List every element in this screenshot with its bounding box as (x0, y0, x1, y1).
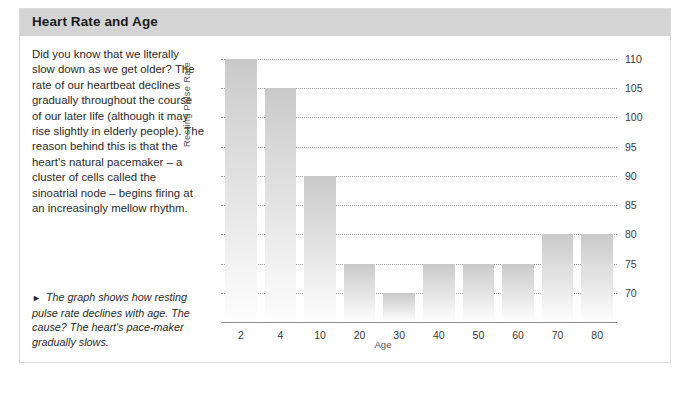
x-tick-label: 60 (512, 329, 524, 341)
bar (542, 234, 574, 322)
panel-header-band: Heart Rate and Age (20, 9, 670, 36)
figure-caption: ► The graph shows how resting pulse rate… (32, 290, 210, 349)
figure-caption-text: The graph shows how resting pulse rate d… (32, 291, 190, 348)
y-tick-label: 80 (625, 228, 637, 240)
x-axis-line (221, 322, 617, 323)
x-tick-label: 80 (591, 329, 603, 341)
page-title: Heart Rate and Age (32, 14, 158, 29)
gridline (221, 59, 617, 60)
bar (581, 234, 613, 322)
article-text-column: Did you know that we literally slow down… (32, 47, 204, 216)
x-tick-label: 20 (354, 329, 366, 341)
x-tick-label: 10 (314, 329, 326, 341)
bar (463, 264, 495, 322)
bar (225, 59, 257, 322)
x-tick-label: 40 (433, 329, 445, 341)
bar (502, 264, 534, 322)
y-tick-label: 70 (625, 287, 637, 299)
y-axis-label: Resting Pulse Rate (182, 27, 192, 147)
y-tick-label: 105 (625, 82, 643, 94)
y-tick-label: 90 (625, 170, 637, 182)
x-tick-label: 50 (473, 329, 485, 341)
chart-container: Resting Pulse Rate 110105100959085807570… (185, 47, 665, 352)
x-tick-label: 2 (238, 329, 244, 341)
x-axis-label: Age (374, 339, 391, 350)
x-tick-label: 4 (277, 329, 283, 341)
y-tick-label: 85 (625, 199, 637, 211)
x-tick-label: 70 (552, 329, 564, 341)
y-tick-label: 95 (625, 141, 637, 153)
y-tick-label: 110 (625, 53, 642, 65)
article-body: Did you know that we literally slow down… (32, 47, 204, 216)
y-tick-label: 100 (625, 111, 643, 123)
bar (265, 88, 297, 322)
x-tick-label: 30 (393, 329, 405, 341)
bar (423, 264, 455, 322)
article-panel: Heart Rate and Age Did you know that we … (19, 8, 671, 363)
bar (344, 264, 376, 322)
bar (304, 176, 336, 322)
y-tick-label: 75 (625, 258, 637, 270)
caption-triangle-icon: ► (32, 293, 43, 303)
bar (383, 293, 415, 322)
plot-area: 110105100959085807570241020304050607080 (221, 59, 617, 322)
